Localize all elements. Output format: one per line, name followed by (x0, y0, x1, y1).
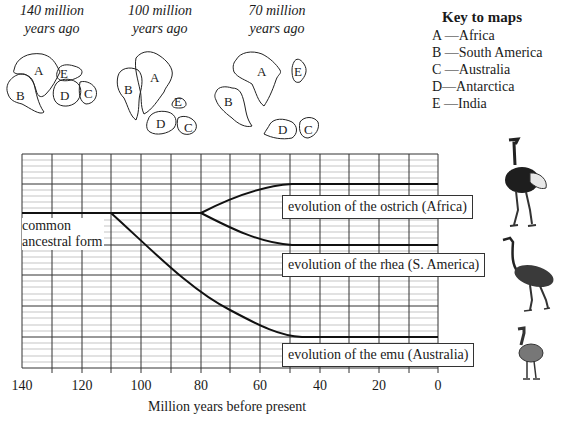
rhea-illustration (503, 238, 556, 311)
bird-illustrations (0, 0, 573, 421)
ostrich-illustration (505, 139, 546, 226)
emu-illustration (518, 328, 543, 379)
